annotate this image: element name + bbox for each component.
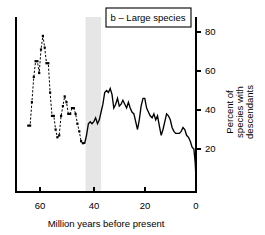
x-tick-label-60: 60 [35,200,46,211]
line-chart: 60 40 20 0 80 60 40 20 Million years bef… [0,0,265,235]
data-point-marker [75,113,77,115]
data-point-marker [73,107,75,109]
data-point-marker [49,91,51,93]
plot-frame [16,17,196,192]
data-point-marker [80,140,82,142]
x-tick-label-40: 40 [89,200,100,211]
data-point-marker [67,113,69,115]
data-point-marker [55,128,57,130]
data-point-marker [33,76,35,78]
data-point-marker [60,115,62,117]
data-point-marker [64,95,66,97]
data-point-marker [65,101,67,103]
y-tick-label-80: 80 [205,26,216,37]
data-point-marker [78,130,80,132]
data-point-marker [53,115,55,117]
panel-label-text: b – Large species [111,12,186,23]
data-point-marker [76,123,78,125]
data-point-marker [56,136,58,138]
chart-figure: 60 40 20 0 80 60 40 20 Million years bef… [0,0,265,235]
data-point-marker [82,142,84,144]
data-point-marker [69,113,71,115]
y-tick-label-40: 40 [205,104,216,115]
data-point-marker [58,134,60,136]
data-series [27,35,196,179]
data-point-marker [44,47,46,49]
x-tick-label-0: 0 [193,200,198,211]
data-point-marker [62,105,64,107]
y-axis-title: Percent of species with descendants [224,85,255,139]
series-line-dashed-segment [28,36,83,143]
y-axis-title-line-3: descendants [244,85,255,139]
shaded-interval-band [86,17,102,192]
data-point-marker [36,60,38,62]
data-point-marker [38,72,40,74]
data-point-marker [47,62,49,64]
data-point-marker [29,125,31,127]
y-tick-label-20: 20 [205,143,216,154]
y-tick-label-60: 60 [205,65,216,76]
x-axis-title: Million years before present [48,218,165,229]
data-point-marker [42,35,44,37]
data-point-marker [40,48,42,50]
data-point-marker [31,101,33,103]
x-tick-label-20: 20 [140,200,151,211]
panel-label-box: b – Large species [106,8,191,27]
